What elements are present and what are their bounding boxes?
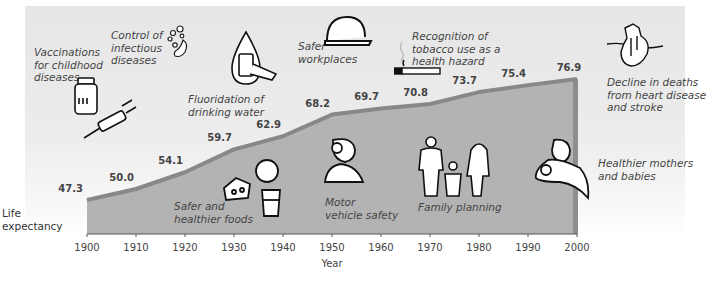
x-tick-label: 1910	[123, 242, 148, 253]
heart-icon	[605, 20, 665, 68]
data-label: 76.9	[557, 62, 582, 73]
x-axis-title: Year	[320, 258, 343, 269]
data-label: 54.1	[158, 155, 183, 166]
caption-infectious-diseases: Control of infectious diseases	[111, 29, 163, 67]
x-tick-label: 1950	[319, 242, 344, 253]
data-label: 69.7	[354, 91, 379, 102]
data-label: 68.2	[305, 98, 330, 109]
y-axis-title: Life expectancy	[2, 207, 82, 232]
x-tick-label: 1970	[417, 242, 442, 253]
mother-baby-icon	[530, 138, 592, 200]
caption-heart: Decline in deaths from heart disease and…	[607, 76, 706, 114]
caption-fluoridation: Fluoridation of drinking water	[188, 93, 264, 118]
water-drop-glass-icon	[226, 30, 278, 88]
vaccine-vial-syringe-icon	[70, 76, 140, 142]
family-icon	[415, 136, 495, 200]
x-tick-label: 1940	[270, 242, 295, 253]
x-tick-label: 1900	[74, 242, 99, 253]
data-label: 50.0	[109, 172, 134, 183]
x-tick-label: 1990	[515, 242, 540, 253]
x-axis: 1900191019201930194019501960197019801990…	[74, 234, 589, 253]
caption-family-planning: Family planning	[418, 201, 502, 214]
data-label: 47.3	[58, 183, 83, 194]
hard-hat-icon	[323, 13, 373, 47]
x-tick-label: 1930	[221, 242, 246, 253]
caption-mothers-babies: Healthier mothers and babies	[598, 157, 693, 182]
data-label: 59.7	[207, 132, 232, 143]
germ-icon	[163, 24, 195, 64]
x-tick-label: 1920	[172, 242, 197, 253]
cheese-milk-icon	[222, 158, 286, 218]
x-tick-label: 1960	[368, 242, 393, 253]
data-label: 73.7	[452, 75, 477, 86]
caption-motor-vehicle: Motor vehicle safety	[325, 196, 398, 221]
data-label: 75.4	[501, 68, 526, 79]
cigarette-icon	[394, 40, 442, 76]
data-label: 62.9	[256, 119, 281, 130]
x-tick-label: 2000	[564, 242, 589, 253]
crash-dummy-icon	[323, 136, 367, 188]
data-label: 70.8	[403, 87, 428, 98]
x-tick-label: 1980	[466, 242, 491, 253]
